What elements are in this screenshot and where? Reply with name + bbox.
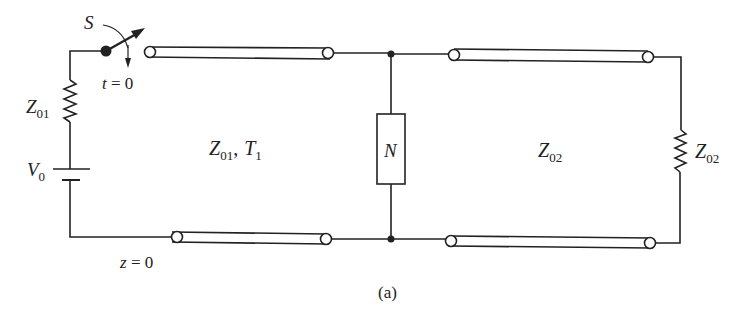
source-resistor-label: Z01 [26,96,50,121]
battery-icon [53,169,90,180]
switch-time-label: t = 0 [102,74,133,93]
circuit-diagram: S t = 0 Z01 V0 z = 0 Z01,T1 N Z02 Z02 (a… [0,0,745,313]
line1-top-conductor [145,47,392,60]
network-label: N [383,140,398,161]
battery-label: V0 [27,159,45,184]
switch-icon [101,25,146,68]
line1-bottom-conductor [172,232,392,245]
load-resistor-icon [675,130,686,172]
position-label: z = 0 [119,253,153,272]
figure-caption: (a) [378,283,397,302]
source-resistor-icon [64,80,76,122]
load-label: Z02 [695,140,719,166]
line2-label: Z02 [538,139,562,165]
line1-label: Z01,T1 [209,137,262,163]
switch-label: S [84,12,94,33]
line2-bottom-conductor [391,172,680,249]
line2-top-conductor [391,49,681,130]
